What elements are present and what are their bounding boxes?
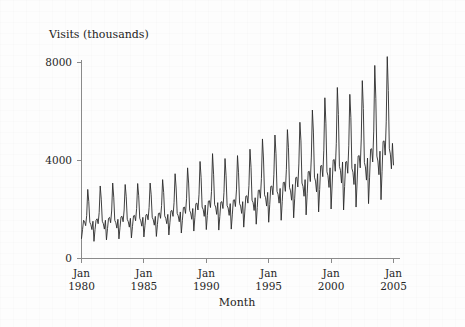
x-tick-label-1985-month: Jan <box>134 267 152 279</box>
y-axis-ticks: 0 4000 8000 <box>45 56 81 264</box>
x-tick-label-2005-year: 2005 <box>380 280 407 292</box>
x-tick-label-1980-year: 1980 <box>68 280 95 292</box>
y-tick-label-0: 0 <box>65 252 72 264</box>
x-tick-label-1990-year: 1990 <box>193 280 220 292</box>
data-series-line <box>82 57 394 242</box>
chart-svg: Visits (thousands) 0 4000 8000 <box>0 0 465 327</box>
line-chart-figure: Visits (thousands) 0 4000 8000 <box>0 0 465 327</box>
x-axis-title: Month <box>219 296 255 309</box>
x-tick-label-1995-month: Jan <box>259 267 277 279</box>
y-axis-title: Visits (thousands) <box>48 28 149 41</box>
x-axis-ticks: Jan 1980 Jan 1985 Jan 1990 Jan 1995 Jan … <box>68 259 407 293</box>
x-tick-label-1980-month: Jan <box>72 267 90 279</box>
x-tick-label-2000-month: Jan <box>321 267 339 279</box>
x-tick-label-2000-year: 2000 <box>318 280 345 292</box>
x-tick-label-1990-month: Jan <box>197 267 215 279</box>
y-tick-label-4000: 4000 <box>45 154 72 166</box>
x-tick-label-1985-year: 1985 <box>131 280 158 292</box>
x-tick-label-2005-month: Jan <box>384 267 402 279</box>
chart-page: Visits (thousands) 0 4000 8000 <box>0 0 465 327</box>
y-tick-label-8000: 8000 <box>45 56 72 68</box>
x-tick-label-1995-year: 1995 <box>255 280 282 292</box>
